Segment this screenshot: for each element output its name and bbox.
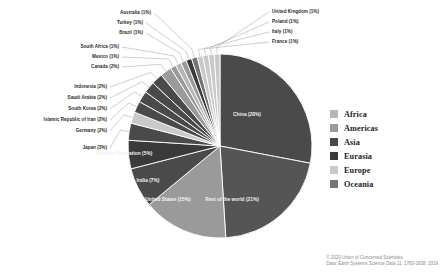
callout-label: Canada (2%) (91, 64, 119, 70)
slice-label: China (28%) (233, 112, 261, 118)
callout-label: France (1%) (272, 39, 298, 45)
legend-swatch-icon (330, 138, 338, 146)
callout-label: Germany (2%) (76, 128, 107, 134)
pie-slice (220, 54, 312, 163)
leader-line (110, 130, 130, 148)
leader-line (154, 13, 195, 59)
leader-line (146, 33, 184, 62)
legend-item-label: Americas (344, 124, 378, 133)
callout-label: Turkey (1%) (117, 20, 143, 26)
slice-label: Rest of the world (21%) (205, 197, 259, 203)
legend-item-label: Africa (344, 110, 367, 119)
callout-label: Saudi Arabia (2%) (68, 95, 107, 101)
callout-label: Poland (1%) (272, 19, 299, 25)
slice-label: Russian Federation (5%) (96, 151, 153, 157)
callout-label: Italy (1%) (272, 29, 292, 35)
callout-label: United Kingdom (1%) (272, 9, 319, 15)
pie-chart-figure: Japan (3%)Germany (2%)Islamic Republic o… (0, 0, 444, 274)
callout-label: South Africa (1%) (80, 44, 119, 50)
attribution-source: Data: Earth Systems Science Data 11, 178… (326, 261, 438, 267)
callout-label: Brazil (1%) (119, 30, 143, 36)
legend-swatch-icon (330, 152, 338, 160)
leader-line (122, 64, 167, 72)
leader-line (211, 22, 269, 55)
legend-item-oceania[interactable]: Oceania (330, 180, 378, 188)
legend-swatch-icon (330, 180, 338, 188)
callout-label: Mexico (1%) (92, 54, 119, 60)
callout-label: Indonesia (2%) (74, 84, 107, 90)
legend-item-americas[interactable]: Americas (330, 124, 378, 132)
callout-label: Australia (1%) (120, 10, 151, 16)
legend-item-label: Oceania (344, 180, 373, 189)
legend-swatch-icon (330, 166, 338, 174)
legend-swatch-icon (330, 124, 338, 132)
legend-item-europe[interactable]: Europe (330, 166, 378, 174)
legend-item-label: Asia (344, 138, 360, 147)
legend-item-eurasia[interactable]: Eurasia (330, 152, 378, 160)
legend-item-asia[interactable]: Asia (330, 138, 378, 146)
slice-label: United States (15%) (145, 197, 190, 203)
legend-item-africa[interactable]: Africa (330, 110, 378, 118)
leader-line (205, 32, 270, 56)
legend-swatch-icon (330, 110, 338, 118)
pie-slice-group (128, 54, 312, 238)
chart-legend: AfricaAmericasAsiaEurasiaEuropeOceania (330, 110, 378, 188)
slice-label: India (7%) (137, 178, 160, 184)
callout-label: Islamic Republic of Iran (2%) (44, 117, 107, 123)
attribution-block: © 2020 Union of Concerned Scientists Dat… (326, 255, 438, 267)
legend-item-label: Europe (344, 166, 370, 175)
leader-line (122, 57, 174, 68)
leader-line (110, 72, 158, 87)
callout-label: South Korea (2%) (68, 106, 107, 112)
legend-item-label: Eurasia (344, 152, 372, 161)
